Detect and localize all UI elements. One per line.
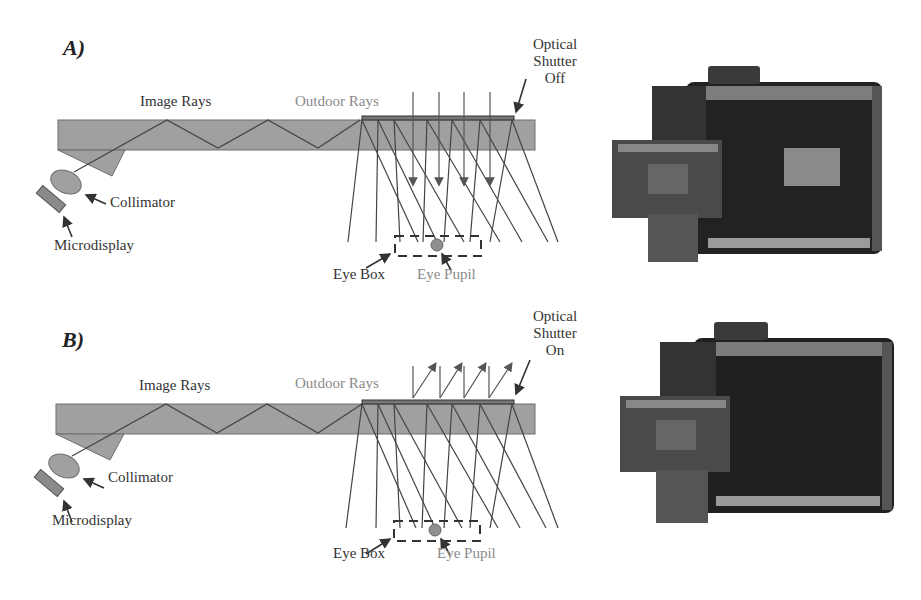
label-optical-shutter: Optical Shutter Off bbox=[510, 36, 600, 87]
panel-b: B) Image Rays Outdoor Rays Optical Shutt… bbox=[0, 290, 921, 600]
label-optical-shutter: Optical Shutter On bbox=[510, 308, 600, 359]
shutter-line1: Optical bbox=[510, 36, 600, 53]
label-collimator: Collimator bbox=[110, 194, 175, 211]
shutter-line2: Shutter bbox=[510, 325, 600, 342]
panel-a: A) Image Rays Outdoor Rays Optical Shutt… bbox=[0, 0, 921, 300]
shutter-state: On bbox=[510, 342, 600, 359]
label-eye-box: Eye Box bbox=[333, 545, 385, 562]
label-outdoor-rays: Outdoor Rays bbox=[295, 93, 379, 110]
shutter-line1: Optical bbox=[510, 308, 600, 325]
shutter-state: Off bbox=[510, 70, 600, 87]
label-collimator: Collimator bbox=[108, 469, 173, 486]
outdoor-rays-reflected bbox=[413, 366, 510, 398]
eye-pupil bbox=[429, 524, 441, 536]
label-eye-pupil: Eye Pupil bbox=[417, 266, 476, 283]
panel-label-b: B) bbox=[62, 327, 84, 353]
label-image-rays: Image Rays bbox=[139, 377, 210, 394]
optical-shutter bbox=[362, 116, 514, 120]
label-outdoor-rays: Outdoor Rays bbox=[295, 375, 379, 392]
label-eye-box: Eye Box bbox=[333, 266, 385, 283]
label-microdisplay: Microdisplay bbox=[52, 512, 132, 529]
label-image-rays: Image Rays bbox=[140, 93, 211, 110]
waveguide-slab bbox=[56, 404, 535, 434]
panel-label-a: A) bbox=[63, 35, 85, 61]
prototype-photo-b bbox=[614, 308, 894, 523]
label-eye-pupil: Eye Pupil bbox=[437, 545, 496, 562]
optical-shutter bbox=[362, 400, 514, 404]
shutter-line2: Shutter bbox=[510, 53, 600, 70]
eye-pupil bbox=[431, 239, 443, 251]
label-microdisplay: Microdisplay bbox=[54, 237, 134, 254]
prototype-photo-a bbox=[608, 52, 888, 262]
